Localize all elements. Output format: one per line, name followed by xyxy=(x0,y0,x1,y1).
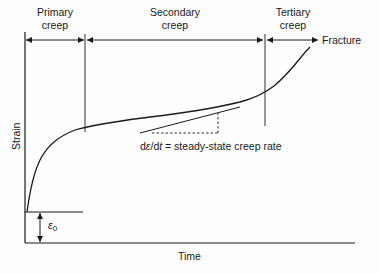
stage-secondary-line2: creep xyxy=(162,19,188,31)
eps0-subscript: 0 xyxy=(53,224,57,233)
fracture-label: Fracture xyxy=(322,34,361,47)
stage-tertiary-line2: creep xyxy=(280,19,306,31)
stage-label-secondary: Secondary creep xyxy=(85,6,265,31)
steady-state-creep-rate-label: dε/dt = steady-state creep rate xyxy=(140,140,282,153)
stage-label-primary: Primary creep xyxy=(26,6,84,31)
creep-curve-figure: Primary creep Secondary creep Tertiary c… xyxy=(0,0,379,273)
y-axis-label: Strain xyxy=(10,106,23,166)
stage-primary-line2: creep xyxy=(42,19,68,31)
stage-label-tertiary: Tertiary creep xyxy=(265,6,321,31)
stage-primary-line1: Primary xyxy=(37,6,73,18)
slope-tangent-line xyxy=(140,107,240,133)
stage-tertiary-line1: Tertiary xyxy=(276,6,310,18)
rate-d2: /d xyxy=(150,140,159,152)
stage-secondary-line1: Secondary xyxy=(150,6,200,18)
initial-strain-label: ε0 xyxy=(48,219,57,236)
rate-suffix: = steady-state creep rate xyxy=(162,140,281,152)
creep-curve xyxy=(27,47,310,212)
x-axis-label: Time xyxy=(0,250,379,263)
